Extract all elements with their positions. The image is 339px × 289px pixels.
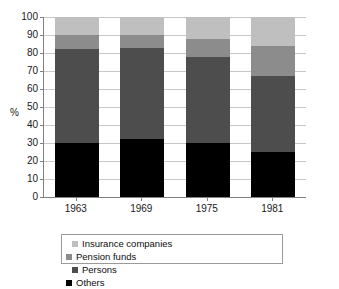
legend-swatch-icon — [72, 267, 78, 273]
chart-legend: Insurance companiesPension fundsPersonsO… — [61, 234, 283, 264]
bar-segment-pension-funds-1975[interactable] — [186, 39, 230, 57]
legend-item-insurance-companies[interactable]: Insurance companies — [66, 237, 178, 250]
x-axis-cell-1975: 1975 — [174, 199, 240, 215]
legend-label: Others — [76, 277, 105, 289]
bar-slot-1963 — [44, 17, 110, 197]
y-tick-label-60: 60 — [27, 84, 38, 94]
x-tick-label-1963: 1963 — [43, 203, 109, 214]
y-tick-label-40: 40 — [27, 120, 38, 130]
bar-segment-others-1969[interactable] — [120, 139, 164, 197]
bar-segment-pension-funds-1963[interactable] — [55, 35, 99, 49]
bar-slot-1975 — [175, 17, 241, 197]
bar-segment-pension-funds-1981[interactable] — [251, 46, 295, 77]
legend-label: Pension funds — [76, 251, 136, 263]
bar-segment-persons-1981[interactable] — [251, 76, 295, 152]
y-tick-label-100: 100 — [21, 12, 38, 22]
y-tick-label-80: 80 — [27, 48, 38, 58]
legend-swatch-icon — [66, 254, 72, 260]
x-tick-label-1981: 1981 — [240, 203, 306, 214]
gridline-0 — [44, 197, 306, 198]
stacked-bar-1969[interactable] — [120, 17, 164, 197]
y-tick-label-30: 30 — [27, 138, 38, 148]
x-tick-1963 — [76, 197, 77, 201]
y-tick-0 — [40, 197, 44, 198]
y-tick-label-90: 90 — [27, 30, 38, 40]
x-tick-1969 — [141, 197, 142, 201]
chart-title — [0, 0, 339, 2]
x-tick-label-1975: 1975 — [174, 203, 240, 214]
bar-segment-insurance-companies-1969[interactable] — [120, 17, 164, 35]
y-tick-label-70: 70 — [27, 66, 38, 76]
x-axis-cell-1969: 1969 — [109, 199, 175, 215]
legend-item-pension-funds[interactable]: Pension funds — [66, 250, 172, 263]
stacked-bar-1963[interactable] — [55, 17, 99, 197]
plot-area: 1009080706050403020100 — [43, 17, 306, 198]
legend-swatch-icon — [72, 241, 78, 247]
legend-swatch-icon — [66, 280, 72, 286]
bar-slot-1981 — [241, 17, 307, 197]
bar-segment-others-1981[interactable] — [251, 152, 295, 197]
x-axis: 1963196919751981 — [43, 199, 305, 215]
bar-segment-insurance-companies-1981[interactable] — [251, 17, 295, 46]
stacked-bar-1975[interactable] — [186, 17, 230, 197]
y-tick-label-10: 10 — [27, 174, 38, 184]
bar-segment-persons-1963[interactable] — [55, 49, 99, 143]
x-axis-cell-1963: 1963 — [43, 199, 109, 215]
bar-group — [44, 17, 306, 197]
y-tick-label-20: 20 — [27, 156, 38, 166]
bar-segment-others-1963[interactable] — [55, 143, 99, 197]
y-tick-label-50: 50 — [27, 102, 38, 112]
legend-item-persons[interactable]: Persons — [66, 263, 178, 276]
stacked-bar-1981[interactable] — [251, 17, 295, 197]
x-tick-1975 — [207, 197, 208, 201]
bar-segment-pension-funds-1969[interactable] — [120, 35, 164, 48]
legend-item-others[interactable]: Others — [66, 276, 172, 289]
legend-label: Persons — [82, 264, 117, 276]
bar-segment-others-1975[interactable] — [186, 143, 230, 197]
bar-segment-persons-1975[interactable] — [186, 57, 230, 143]
y-tick-label-0: 0 — [32, 192, 38, 202]
bar-slot-1969 — [110, 17, 176, 197]
bar-segment-persons-1969[interactable] — [120, 48, 164, 140]
x-tick-1981 — [272, 197, 273, 201]
legend-label: Insurance companies — [82, 238, 172, 250]
bar-segment-insurance-companies-1975[interactable] — [186, 17, 230, 39]
x-tick-label-1969: 1969 — [109, 203, 175, 214]
x-axis-cell-1981: 1981 — [240, 199, 306, 215]
y-axis-unit-label: % — [10, 107, 19, 118]
bar-segment-insurance-companies-1963[interactable] — [55, 17, 99, 35]
